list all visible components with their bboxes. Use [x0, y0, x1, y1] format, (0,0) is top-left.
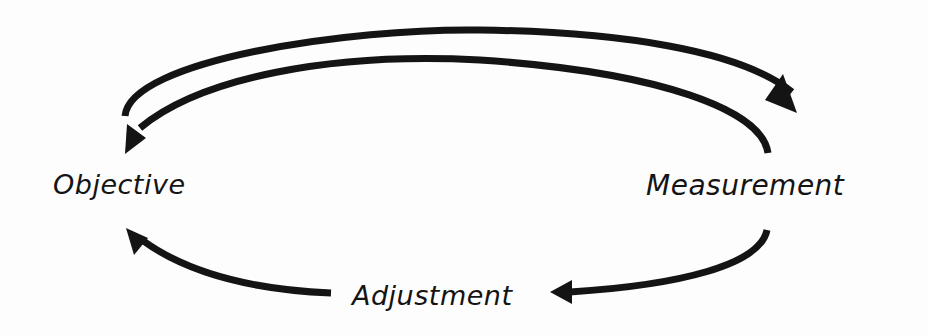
arrowhead-icon — [550, 280, 572, 304]
arrow-measurement-to-adjustment — [570, 230, 767, 292]
arrowhead-icon — [126, 228, 148, 255]
node-adjustment: Adjustment — [352, 282, 513, 309]
node-measurement: Measurement — [646, 172, 844, 200]
arrow-objective-to-measurement — [125, 30, 792, 116]
node-objective: Objective — [53, 171, 186, 198]
feedback-cycle-diagram: Objective Measurement Adjustment — [0, 0, 928, 336]
arrow-measurement-to-objective — [140, 59, 768, 153]
arrow-adjustment-to-objective — [142, 240, 331, 293]
